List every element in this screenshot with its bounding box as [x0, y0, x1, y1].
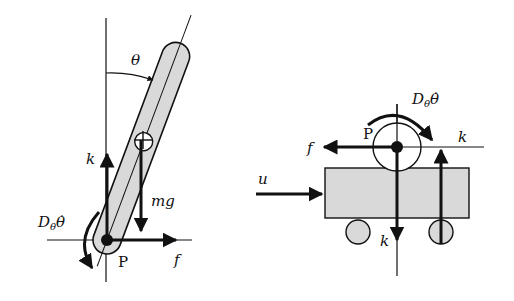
mg-label: mg — [151, 192, 175, 210]
svg-text:Dθθ̇: Dθθ̇ — [411, 90, 439, 109]
theta-arc — [106, 73, 153, 80]
f-label-right: f — [306, 139, 315, 157]
theta-label: θ — [131, 51, 140, 69]
wheel-left — [346, 220, 370, 244]
pivot-point-P-right — [391, 141, 403, 153]
P-label-right: P — [363, 125, 373, 143]
P-label: P — [118, 253, 128, 271]
cart-panel: k k f P Dθθ̇ u — [256, 90, 484, 276]
free-body-diagram: θ k mg f P Dθθ̇ k — [0, 0, 514, 301]
damping-label: Dθθ̇ — [37, 213, 65, 232]
k-bottom-label: k — [380, 232, 389, 250]
pendulum-panel: θ k mg f P Dθθ̇ — [37, 10, 204, 282]
svg-text:Dθθ̇: Dθθ̇ — [37, 213, 65, 232]
k-top-label: k — [458, 128, 467, 146]
pivot-point-P — [101, 234, 113, 246]
damping-label-right: Dθθ̇ — [411, 90, 439, 109]
u-label: u — [258, 170, 268, 188]
pendulum-rod — [84, 10, 204, 271]
k-label: k — [86, 150, 95, 168]
f-label: f — [173, 251, 182, 269]
